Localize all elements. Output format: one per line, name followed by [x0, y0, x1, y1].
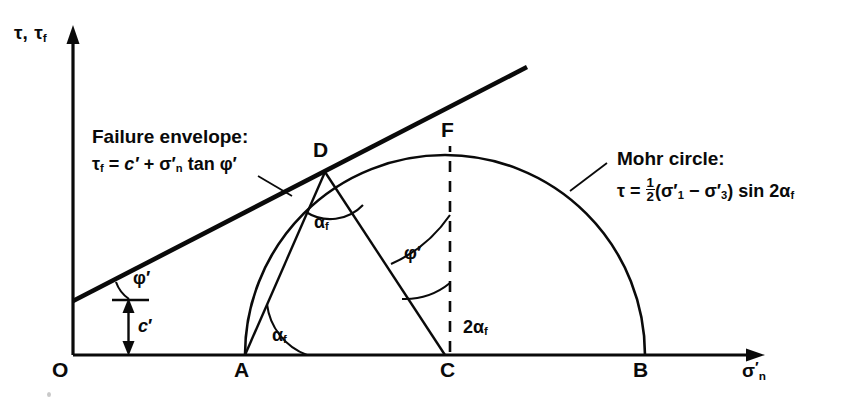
- eq-sigma-n-prime: σ′n: [159, 154, 182, 174]
- eq-one-half: 12: [646, 176, 655, 204]
- eq-close-paren: ): [727, 181, 733, 201]
- angle-label-phi-prime-origin: φ′: [133, 268, 150, 289]
- angle-arc-two-alpha-f-C: [402, 283, 450, 299]
- y-axis: [67, 25, 80, 355]
- leader-line-mohr: [570, 163, 607, 191]
- eq-equals: =: [109, 154, 120, 174]
- diagram-canvas: [0, 0, 846, 410]
- angle-label-phi-prime-C: φ′: [404, 243, 421, 264]
- angle-arc-phi-prime-origin: [116, 282, 129, 299]
- eq-sigma-1-prime: σ′1: [661, 181, 684, 201]
- y-axis-label-tau-f-base: τ: [34, 22, 42, 43]
- angle-label-alpha-f-A: αf: [272, 325, 287, 346]
- mohr-circle-annotation: Mohr circle: τ = 12(σ′1 − σ′3) sin 2αf: [617, 148, 794, 203]
- eq-m-equals: =: [630, 181, 641, 201]
- radius-C-D: [325, 172, 445, 355]
- scan-speck: [47, 392, 51, 397]
- x-axis-label-sigma: σ: [742, 360, 755, 381]
- point-label-D: D: [313, 138, 328, 162]
- y-axis-label-tau-f-sub: f: [43, 31, 47, 44]
- failure-envelope-equation: ττff = c′ + σ′n tan φ′: [92, 154, 248, 175]
- point-label-B: B: [633, 358, 648, 382]
- angle-label-two-alpha-f-C: 2αf: [463, 317, 488, 338]
- failure-envelope-annotation: Failure envelope: ττff = c′ + σ′n tan φ′: [92, 126, 248, 175]
- x-axis-label: σ′n: [742, 358, 766, 382]
- y-axis-label-tau: τ,: [14, 22, 28, 43]
- failure-envelope-title: Failure envelope:: [92, 126, 248, 148]
- point-label-F: F: [441, 118, 454, 142]
- point-label-O: O: [52, 358, 68, 382]
- eq-tau-f: ττff: [92, 154, 104, 174]
- y-axis-label: τ, τf: [14, 22, 47, 44]
- eq-sigma-3-prime: σ′3: [704, 181, 727, 201]
- failure-envelope-line: [73, 67, 527, 301]
- eq-minus: −: [689, 181, 700, 201]
- leader-line-envelope: [258, 176, 292, 196]
- mohr-circle-title: Mohr circle:: [617, 148, 794, 170]
- eq-two-alpha-f: 2αf: [769, 181, 794, 201]
- eq-tau: τ: [617, 181, 625, 201]
- mohr-circle-equation: τ = 12(σ′1 − σ′3) sin 2αf: [617, 176, 794, 204]
- eq-plus: +: [144, 154, 155, 174]
- eq-phi-prime: φ′: [220, 154, 237, 174]
- x-axis: [73, 349, 765, 362]
- angle-label-alpha-f-D: αf: [314, 212, 329, 233]
- eq-c-prime: c′: [124, 154, 138, 174]
- eq-sin: sin: [738, 181, 764, 201]
- eq-tan: tan: [188, 154, 215, 174]
- point-label-C: C: [440, 358, 455, 382]
- x-axis-label-sub: n: [759, 369, 766, 382]
- point-label-A: A: [234, 358, 249, 382]
- dimension-label-c-prime: c′: [138, 316, 152, 337]
- mohr-circle-arc: [245, 155, 645, 355]
- mohr-circle-figure: τ, τf σ′n O A C B D F Failure envelope: …: [0, 0, 846, 410]
